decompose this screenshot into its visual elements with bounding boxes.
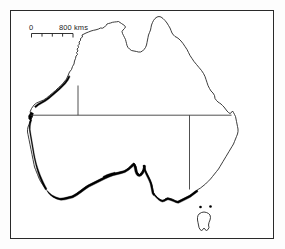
australia-coastline xyxy=(28,17,239,202)
highlighted-coastal-zones xyxy=(29,76,199,204)
bass-strait-islet-east xyxy=(209,205,212,208)
scale-bar xyxy=(32,34,74,38)
map-figure: 0 800 kms xyxy=(0,0,285,249)
bass-strait-islet-west xyxy=(199,206,202,209)
state-border-lines xyxy=(31,86,232,190)
australia-map-svg xyxy=(0,0,285,249)
tasmania xyxy=(198,205,212,230)
